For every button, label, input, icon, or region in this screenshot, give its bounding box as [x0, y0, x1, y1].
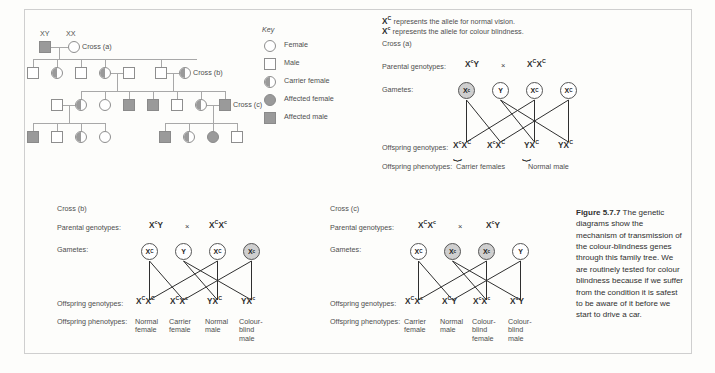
gen3-sibship-bar-left	[81, 91, 153, 92]
cross-c-offspring-genotype-1: XCXc	[405, 297, 423, 306]
cross-b-phenotype-3: Normalmale	[205, 318, 228, 335]
cross-a-title: Cross (a)	[382, 40, 412, 48]
cross-b-phenotype-1: Normalfemale	[135, 318, 158, 335]
gen2-sibship-bar-right	[161, 59, 197, 60]
figure-caption-text: The genetic diagrams show the mechanism …	[576, 208, 683, 319]
allele-colourblind-symbol: Xc	[382, 27, 391, 36]
pedigree-gen2-male-1	[27, 67, 39, 79]
pedigree-gen4-affected-male-5	[159, 131, 171, 143]
gen4-stem-l1	[33, 123, 34, 131]
pedigree-chart: XY XX Cross (a) Cross (b)	[24, 30, 264, 175]
cross-a-parent-right-genotype: XCXC	[527, 60, 546, 69]
pedigree-gen3-female-2	[99, 99, 111, 111]
gen4-stem-r1	[165, 123, 166, 131]
gen3-stem-l2	[105, 91, 106, 99]
cross-b-parental-label: Parental genotypes:	[57, 224, 121, 232]
founder-female-karyotype: XX	[66, 30, 76, 38]
cross-a-pedigree-label: Cross (a)	[82, 43, 112, 51]
cross-c-pedigree-label: Cross (c)	[233, 101, 262, 109]
gen3-sibship-bar-right	[153, 91, 225, 92]
pedigree-gen2-carrier-female-4	[99, 67, 111, 79]
cross-a-offspring-phenotypes-label: Offspring phenotypes:	[382, 163, 452, 171]
cross-a-phenotype-group-2: Normal male	[528, 163, 569, 171]
key-title: Key	[262, 26, 274, 34]
figure-caption-label: Figure 5.7.7	[576, 208, 620, 217]
pedigree-gen4-carrier-female-3	[75, 131, 87, 143]
cross-b-phenotype-2: Carrierfemale	[169, 318, 191, 335]
key-label-female: Female	[284, 41, 308, 49]
cross-c-gamete-2: Xc	[444, 243, 461, 260]
cross-c-offspring-genotype-3: XcXc	[473, 297, 490, 306]
key-label-affected-female: Affected female	[284, 95, 334, 103]
gen3-stem-r3	[201, 91, 202, 99]
pedigree-gen4-male-2	[51, 131, 63, 143]
cross-a-parent-left-genotype: XcY	[465, 60, 479, 69]
cross-b-parent-left-genotype: XcY	[149, 221, 163, 230]
gen1-descent-line	[59, 47, 60, 59]
gen2-stem-5	[161, 59, 162, 67]
pedigree-gen2-carrier-female-2	[51, 67, 63, 79]
cross-c-gametes-label: Gametes:	[330, 246, 361, 254]
pedigree-gen3-affected-male-spouse	[219, 99, 231, 111]
founder-male-karyotype: XY	[40, 30, 50, 38]
pedigree-gen4-affected-female-7	[207, 131, 219, 143]
pedigree-gen4-affected-male-1	[27, 131, 39, 143]
gen3-right-descent	[213, 105, 214, 123]
gen2-stem-3	[81, 59, 82, 67]
gen4-stem-l2	[57, 123, 58, 131]
key-symbol-affected-male	[264, 112, 276, 124]
cross-b-offspring-genotype-2: XCXc	[170, 297, 188, 306]
cross-a-gametes-label: Gametes:	[382, 86, 413, 94]
cross-b-times-symbol: ×	[185, 222, 189, 231]
allele-legend: XC represents the allele for normal visi…	[382, 10, 682, 34]
cross-b-title: Cross (b)	[57, 205, 87, 213]
pedigree-gen2-carrier-female-spouse-5	[179, 67, 191, 79]
key-label-male: Male	[284, 59, 300, 67]
cross-c-title: Cross (c)	[330, 205, 359, 213]
key-symbol-male	[264, 58, 276, 70]
key-label-affected-male: Affected male	[284, 113, 328, 121]
gen3-stem-l3	[129, 91, 130, 99]
cross-c-parent-right-genotype: XcY	[486, 221, 500, 230]
cross-a-parental-label: Parental genotypes:	[382, 63, 446, 71]
key-label-carrier-female: Carrier female	[284, 77, 330, 85]
gen2-stem-2	[57, 59, 58, 67]
cross-a-phenotype-group-1: Carrier females	[456, 163, 505, 171]
pedigree-gen3-affected-male-3	[123, 99, 135, 111]
allele-colourblind-text: represents the allele for colour blindne…	[391, 27, 524, 36]
gen2-right-descent	[173, 73, 174, 91]
cross-a-diagram: Cross (a) Parental genotypes: Gametes: O…	[382, 40, 682, 175]
gen3-stem-r4	[225, 91, 226, 99]
pedigree-gen3-affected-male-4	[147, 99, 159, 111]
cross-b-gamete-3: XC	[209, 243, 226, 260]
gen4-stem-r4	[237, 123, 238, 131]
cross-a-gamete-4: XC	[560, 82, 577, 99]
gen3-stem-r2	[177, 91, 178, 99]
cross-c-gamete-4: Y	[512, 243, 529, 260]
pedigree-gen3-carrier-female-6	[195, 99, 207, 111]
pedigree-gen3-male-5	[171, 99, 183, 111]
cross-b-diagram: Cross (b) Parental genotypes: Gametes: O…	[57, 205, 347, 345]
cross-a-inheritance-lines	[382, 100, 592, 145]
gen3-stem-l1	[81, 91, 82, 99]
figure-page: XY XX Cross (a) Cross (b)	[0, 0, 715, 373]
cross-a-gamete-2: Y	[492, 82, 509, 99]
cross-c-phenotype-3: Colour-blindfemale	[472, 318, 496, 343]
gen4-stem-l4	[105, 123, 106, 131]
key-symbol-affected-female	[264, 94, 276, 106]
pedigree-gen4-female-4	[99, 131, 111, 143]
cross-c-parent-left-genotype: XCXc	[418, 221, 436, 230]
gen4-stem-l3	[81, 123, 82, 131]
cross-b-gamete-4: Xc	[243, 243, 260, 260]
cross-c-gamete-1: XC	[410, 243, 427, 260]
gen3-stem-l4	[153, 91, 154, 99]
gen3-left-descent	[69, 105, 70, 123]
cross-b-parent-right-genotype: XCXc	[209, 221, 227, 230]
cross-a-brace-1: ⏟	[453, 150, 462, 161]
cross-a-offspring-genotype-2: XcXC	[487, 141, 505, 150]
cross-b-offspring-genotype-4: YXc	[241, 297, 255, 306]
gen4-stem-r3	[213, 123, 214, 131]
cross-b-gamete-2: Y	[175, 243, 192, 260]
cross-c-phenotype-2: Normalmale	[440, 318, 463, 335]
gen2-stem-4	[105, 59, 106, 67]
